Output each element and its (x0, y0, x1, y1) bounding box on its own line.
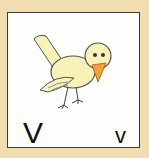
uppercase-letter: V (23, 118, 43, 148)
bird-icon (28, 30, 118, 110)
lowercase-letter: v (115, 125, 126, 147)
flashcard: V v (7, 12, 140, 148)
